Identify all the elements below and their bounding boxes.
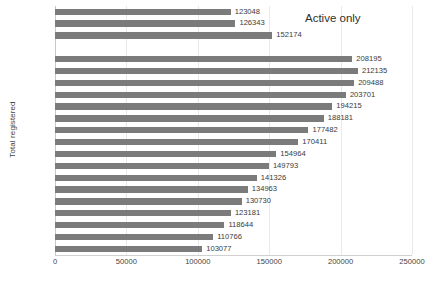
bar-row: 2008154964 [55,148,412,160]
bar-value-label: 126343 [239,17,264,29]
bar-row: 2006141326 [55,172,412,184]
bar [55,175,257,181]
bar [55,198,242,204]
bar-row: 2007149793 [55,160,412,172]
bar-row: 2001110766 [55,231,412,243]
bar-row: 2012194215 [55,101,412,113]
bar-row: 2002118644 [55,219,412,231]
chart-annotation: Active only [305,12,361,24]
bar-value-label: 177482 [312,124,337,136]
x-tick-label: 0 [53,257,57,266]
bar-value-label: 194215 [336,100,361,112]
bar-row: 2016208195 [55,53,412,65]
bar [55,127,308,133]
x-axis-line [55,255,412,256]
bar [55,186,248,192]
bar [55,210,231,216]
bar-value-label: 203701 [350,89,375,101]
bar-chart: Total registered 2019*1230482018*1263432… [0,0,437,285]
bar-value-label: 123048 [235,6,260,18]
bar [55,151,276,157]
bar-value-label: 149793 [273,160,298,172]
x-tick-label: 50000 [116,257,137,266]
bar-value-label: 209488 [358,77,383,89]
bar-row: 2010177482 [55,125,412,137]
bar [55,222,224,228]
bar [55,163,269,169]
bar [55,20,235,26]
x-tick-label: 150000 [257,257,282,266]
bar-row: 2014209488 [55,77,412,89]
bar [55,103,332,109]
gridline-250000 [412,6,413,255]
bar-row: 2003123181 [55,208,412,220]
bar-value-label: 118644 [228,219,253,231]
bar-value-label: 103077 [206,243,231,255]
bar-row: 2005134963 [55,184,412,196]
bar-value-label: 154964 [280,148,305,160]
plot-area: 2019*1230482018*1263432017*1521742016208… [55,6,412,255]
x-tick-label: 100000 [185,257,210,266]
bar-value-label: 110766 [217,231,242,243]
bar-row: 2013203701 [55,89,412,101]
bar [55,139,298,145]
bar-row-spacer [55,42,412,54]
bar [55,56,352,62]
bar [55,246,202,252]
bar-value-label: 134963 [252,183,277,195]
bar [55,92,346,98]
bar-value-label: 212135 [362,65,387,77]
bar-row: 2004130730 [55,196,412,208]
bar-row: 2000103077 [55,243,412,255]
bar-value-label: 188181 [328,112,353,124]
bar-row: 2015212135 [55,65,412,77]
bar [55,68,358,74]
bar [55,32,272,38]
bar [55,9,231,15]
bar-row: 2009170411 [55,136,412,148]
x-tick-label: 250000 [399,257,424,266]
x-axis-tick-labels: 050000100000150000200000250000 [55,257,412,273]
bar-value-label: 152174 [276,29,301,41]
bar-value-label: 170411 [302,136,327,148]
bar [55,115,324,121]
bar-row: 2011188181 [55,113,412,125]
x-tick-label: 200000 [328,257,353,266]
bar-value-label: 141326 [261,172,286,184]
bar-value-label: 208195 [356,53,381,65]
bar-value-label: 130730 [246,195,271,207]
bar-value-label: 123181 [235,207,260,219]
bar [55,80,354,86]
bar [55,234,213,240]
bar-row: 2017*152174 [55,30,412,42]
y-axis-title: Total registered [8,80,17,180]
